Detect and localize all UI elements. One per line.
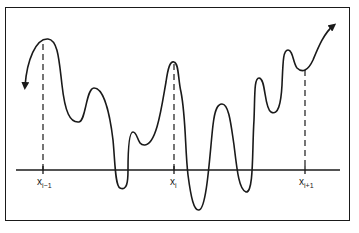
- label-x-curr: xi: [170, 177, 177, 189]
- label-x-prev: xi−1: [37, 177, 52, 189]
- function-curve: [25, 26, 333, 210]
- diagram-figure: xi−1 xi xi+1: [0, 0, 359, 233]
- label-subscript: i+1: [304, 182, 314, 189]
- function-plot: [0, 0, 359, 233]
- label-x-next: xi+1: [299, 177, 314, 189]
- label-subscript: i−1: [42, 182, 52, 189]
- label-subscript: i: [175, 182, 177, 189]
